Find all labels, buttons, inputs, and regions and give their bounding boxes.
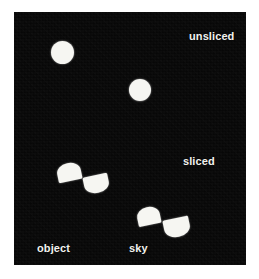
figure-root: unsliced sliced object sky: [0, 0, 259, 279]
label-object: object: [37, 242, 70, 254]
label-sky: sky: [129, 242, 148, 254]
source-sliced-sky-lower: [162, 216, 191, 240]
source-unsliced-sky: [129, 79, 151, 101]
source-sliced-object-lower: [82, 173, 110, 196]
label-sliced: sliced: [183, 155, 215, 167]
source-sliced-object-upper: [55, 161, 82, 184]
detector-noise-texture: [14, 12, 246, 265]
detector-image-panel: unsliced sliced object sky: [14, 12, 246, 265]
label-unsliced: unsliced: [189, 30, 234, 42]
source-unsliced-object: [51, 41, 74, 64]
source-sliced-sky-upper: [135, 205, 161, 227]
